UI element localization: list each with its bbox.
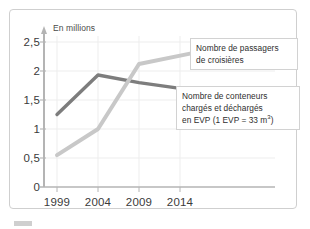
legend-containers-line3: en EVP (1 EVP = 33 m3)	[182, 114, 295, 126]
x-tick-label-2014: 2014	[163, 196, 197, 208]
x-axis-ticks	[57, 187, 180, 192]
x-tick-label-2004: 2004	[81, 196, 115, 208]
legend-item-containers: Nombre de conteneurs chargés et déchargé…	[176, 86, 300, 130]
y-axis-title: En millions	[53, 23, 95, 33]
x-tick-label-2009: 2009	[122, 196, 156, 208]
y-tick-label-0_5: 0,5	[14, 152, 40, 164]
y-tick-label-1: 1	[14, 123, 40, 135]
y-axis	[41, 26, 47, 187]
series-line-cruise	[57, 54, 190, 156]
y-tick-label-2_5: 2,5	[14, 36, 40, 48]
legend-containers-line3-text: en EVP (1 EVP = 33 m	[182, 115, 267, 125]
y-tick-label-1_5: 1,5	[14, 94, 40, 106]
y-tick-label-0: 0	[14, 181, 40, 193]
legend-containers-line3-close: )	[271, 115, 274, 125]
y-tick-label-2: 2	[14, 65, 40, 77]
y-axis-arrow	[41, 26, 47, 34]
legend-cruise-line2: de croisières	[196, 54, 293, 66]
legend-item-cruise-passengers: Nombre de passagers de croisières	[190, 38, 298, 70]
page-marker-stub	[14, 221, 32, 226]
legend-containers-line1: Nombre de conteneurs	[182, 90, 295, 102]
x-tick-label-1999: 1999	[40, 196, 74, 208]
legend-containers-line2: chargés et déchargés	[182, 102, 295, 114]
legend-cruise-line1: Nombre de passagers	[196, 42, 293, 54]
